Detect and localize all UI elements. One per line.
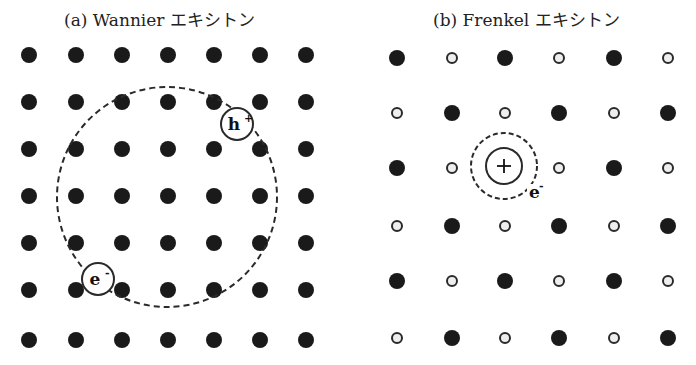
lattice-atom-filled — [389, 273, 405, 289]
lattice-atom-filled — [551, 105, 567, 121]
lattice-atom-filled — [160, 235, 176, 251]
lattice-atom-filled — [389, 160, 405, 176]
lattice-atom-filled — [252, 332, 268, 348]
lattice-atom-filled — [160, 282, 176, 298]
frenkel-panel: e- — [389, 50, 676, 346]
lattice-atom-open — [663, 163, 673, 173]
lattice-atom-filled — [21, 141, 37, 157]
lattice-atom-filled — [252, 94, 268, 110]
lattice-atom-filled — [114, 47, 130, 63]
lattice-atom-filled — [389, 50, 405, 66]
electron-marker-label: e — [90, 269, 101, 289]
lattice-atom-filled — [68, 282, 84, 298]
lattice-atom-open — [447, 53, 457, 63]
lattice-atom-filled — [160, 47, 176, 63]
lattice-atom-open — [554, 163, 564, 173]
lattice-atom-filled — [114, 332, 130, 348]
lattice-atom-filled — [252, 47, 268, 63]
lattice-atom-filled — [206, 141, 222, 157]
lattice-atom-filled — [68, 188, 84, 204]
lattice-atom-filled — [298, 282, 314, 298]
lattice-atom-filled — [160, 332, 176, 348]
lattice-atom-open — [663, 276, 673, 286]
lattice-atom-filled — [444, 218, 460, 234]
lattice-atom-filled — [21, 188, 37, 204]
lattice-atom-open — [500, 108, 510, 118]
lattice-atom-filled — [21, 235, 37, 251]
lattice-atom-filled — [114, 235, 130, 251]
lattice-atom-filled — [21, 282, 37, 298]
lattice-atom-open — [609, 333, 619, 343]
lattice-atom-filled — [252, 188, 268, 204]
lattice-atom-filled — [206, 188, 222, 204]
lattice-atom-filled — [114, 188, 130, 204]
lattice-atom-open — [392, 221, 402, 231]
wannier-panel: h+e- — [21, 47, 314, 348]
hole-marker-label: h — [228, 114, 240, 134]
lattice-atom-open — [554, 276, 564, 286]
lattice-atom-filled — [21, 94, 37, 110]
lattice-atom-open — [500, 221, 510, 231]
lattice-atom-open — [500, 333, 510, 343]
lattice-atom-filled — [551, 218, 567, 234]
lattice-atom-filled — [660, 330, 676, 346]
lattice-atom-filled — [206, 94, 222, 110]
lattice-atom-filled — [298, 47, 314, 63]
lattice-atom-filled — [551, 330, 567, 346]
lattice-atom-filled — [160, 141, 176, 157]
svg-text:-: - — [105, 267, 110, 280]
lattice-atom-open — [554, 53, 564, 63]
lattice-atom-open — [609, 108, 619, 118]
lattice-atom-filled — [252, 282, 268, 298]
lattice-atom-filled — [68, 47, 84, 63]
lattice-atom-filled — [21, 332, 37, 348]
lattice-atom-filled — [298, 141, 314, 157]
lattice-atom-filled — [298, 235, 314, 251]
lattice-atom-filled — [606, 160, 622, 176]
lattice-atom-filled — [660, 218, 676, 234]
lattice-atom-filled — [497, 273, 513, 289]
lattice-atom-filled — [444, 105, 460, 121]
lattice-atom-filled — [606, 273, 622, 289]
lattice-atom-filled — [660, 105, 676, 121]
lattice-atom-filled — [606, 50, 622, 66]
lattice-atom-filled — [252, 235, 268, 251]
lattice-atom-filled — [21, 47, 37, 63]
svg-text:+: + — [244, 112, 253, 125]
lattice-atom-filled — [160, 94, 176, 110]
lattice-atom-filled — [114, 141, 130, 157]
svg-text:-: - — [539, 180, 544, 193]
lattice-atom-filled — [298, 332, 314, 348]
lattice-atom-filled — [444, 330, 460, 346]
lattice-atom-filled — [497, 50, 513, 66]
lattice-atom-open — [609, 221, 619, 231]
lattice-atom-open — [447, 163, 457, 173]
lattice-atom-filled — [68, 94, 84, 110]
lattice-atom-filled — [160, 188, 176, 204]
lattice-atom-open — [392, 108, 402, 118]
lattice-atom-filled — [298, 188, 314, 204]
lattice-atom-filled — [206, 47, 222, 63]
lattice-atom-filled — [206, 235, 222, 251]
lattice-atom-open — [663, 53, 673, 63]
lattice-atom-filled — [298, 94, 314, 110]
lattice-atom-filled — [68, 332, 84, 348]
lattice-atom-open — [447, 276, 457, 286]
lattice-atom-open — [392, 333, 402, 343]
lattice-atom-filled — [206, 332, 222, 348]
exciton-diagram: h+e- e- — [0, 0, 696, 365]
